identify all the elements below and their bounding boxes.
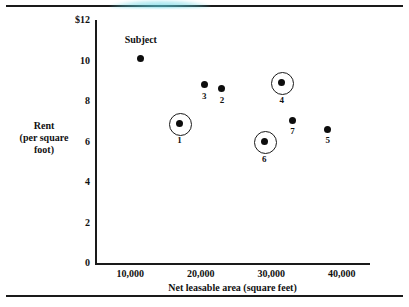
- annotation-subject: Subject: [125, 34, 157, 45]
- data-point-label-5: 5: [325, 135, 330, 145]
- data-point-label-1: 1: [177, 135, 182, 145]
- y-tick-label-8: 8: [50, 96, 90, 106]
- x-axis-line: [95, 263, 370, 265]
- scatter-chart-figure: 0246810$12 10,00020,00030,00040,000 Rent…: [0, 0, 409, 307]
- y-axis-title-line-1: Rent: [0, 120, 88, 132]
- y-tick-label-2: 2: [50, 218, 90, 228]
- data-point-3: [201, 81, 208, 88]
- data-point-label-6: 6: [262, 154, 267, 164]
- y-tick-label-4: 4: [50, 177, 90, 187]
- data-point-1: [176, 120, 183, 127]
- y-axis-title-line-2: (per square: [0, 132, 88, 144]
- data-point-6: [261, 138, 268, 145]
- y-tick-label-10: 10: [50, 56, 90, 66]
- y-tick-label-12: $12: [50, 15, 90, 25]
- x-tick-label-30000: 30,000: [258, 268, 286, 279]
- data-point-label-3: 3: [202, 91, 207, 101]
- data-point-label-2: 2: [220, 95, 225, 105]
- x-axis-title: Net leasable area (square feet): [95, 282, 370, 293]
- y-axis-title-line-3: foot): [0, 144, 88, 156]
- data-point-subject: [137, 55, 144, 62]
- data-point-7: [289, 117, 296, 124]
- scan-artifact-smudge: [110, 0, 210, 8]
- data-point-label-4: 4: [280, 95, 285, 105]
- y-axis-title: Rent (per square foot): [0, 120, 88, 156]
- x-tick-label-20000: 20,000: [187, 268, 215, 279]
- data-point-5: [324, 126, 331, 133]
- y-axis-line: [95, 20, 97, 265]
- x-tick-label-40000: 40,000: [328, 268, 356, 279]
- y-tick-label-0: 0: [50, 258, 90, 268]
- x-tick-label-10000: 10,000: [117, 268, 145, 279]
- data-point-2: [218, 85, 225, 92]
- data-point-label-7: 7: [290, 126, 295, 136]
